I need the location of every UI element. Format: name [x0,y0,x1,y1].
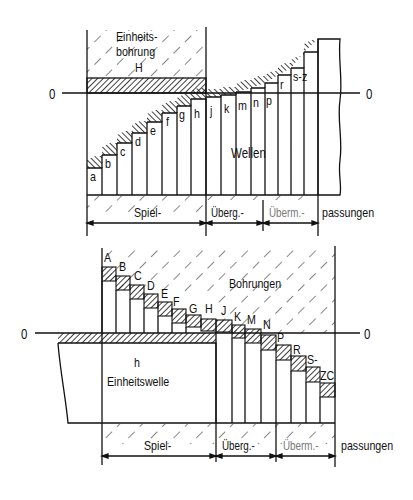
hole-letter: D [147,279,155,292]
shaft-letter: g [179,108,185,121]
shafts-label: Wellen [231,146,266,160]
zero-label-left-top: 0 [49,87,55,101]
shaft-letter: j [210,104,212,117]
fit-label-suffix-top: passungen [322,206,374,219]
hole-letter: B [119,260,126,273]
hole-basis-diagram [62,27,360,236]
fit-label-clearance-bottom: Spiel- [144,439,171,452]
hole-letter: R [293,343,301,356]
hole-letter: K [234,310,241,323]
unit-hole-title-line1: Einheits- [116,30,157,43]
shaft-letter: m [238,99,247,112]
fit-label-transition-bottom: Überg.- [222,440,255,452]
zero-label-right-bottom: 0 [364,327,370,341]
fit-label-interference-top: Überm.- [269,207,305,219]
shaft-letter: a [90,170,96,183]
shaft-letter: p [266,94,272,107]
shaft-letter: h [194,107,200,120]
unit-hole-title-line2: bohrung [116,45,155,58]
hole-letter: P [277,331,284,344]
hole-letter: ZC [320,369,334,382]
shaft-letter: e [150,124,156,137]
fit-label-clearance-top: Spiel- [134,206,161,219]
fit-label-transition-top: Überg.- [211,207,244,219]
hole-letter: M [247,313,256,326]
shaft-symbol-h: h [134,356,140,369]
shaft-letter: f [166,115,169,128]
shaft-letter: d [135,135,141,148]
hole-letter: G [189,302,197,315]
shaft-letter: k [224,102,229,115]
hole-letter: H [205,302,213,315]
hole-letter: A [104,251,111,264]
zero-label-left-bottom: 0 [21,327,27,341]
fit-label-interference-bottom: Überm.- [283,440,319,452]
hole-letter: S- [307,353,318,366]
shaft-letter: n [253,96,259,109]
zero-label-right-top: 0 [366,87,372,101]
hole-letter: N [263,318,271,331]
fit-system-diagram [0,0,413,500]
holes-label: Bohrungen [229,277,281,290]
shaft-letter: s-z [293,70,307,83]
hole-letter: E [161,287,168,300]
hole-symbol-H: H [135,61,143,74]
shaft-letter: r [280,78,284,91]
h-tolerance-band [87,78,206,93]
h-shaft-band [58,333,216,343]
shaft-letter: c [120,145,125,158]
unit-shaft-title: Einheitswelle [107,375,169,388]
fit-label-suffix-bottom: passungen [341,439,393,452]
hole-letter: F [173,295,180,308]
shaft-letter: b [105,157,111,170]
hole-letter: C [134,269,142,282]
hole-letter: J [221,304,226,317]
